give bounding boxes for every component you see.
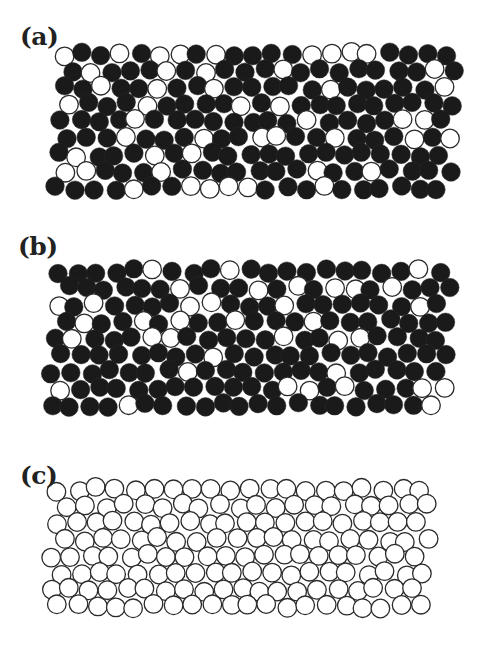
- filled-particle: [199, 331, 218, 350]
- open-particle: [207, 529, 226, 548]
- open-particle: [353, 599, 372, 618]
- filled-particle: [279, 178, 298, 197]
- filled-particle: [338, 78, 357, 97]
- filled-particle: [242, 377, 261, 396]
- open-particle: [296, 596, 315, 615]
- filled-particle: [202, 259, 221, 278]
- open-particle: [405, 130, 424, 149]
- open-particle: [383, 278, 402, 297]
- filled-particle: [237, 329, 256, 348]
- open-particle: [42, 548, 61, 567]
- filled-particle: [117, 93, 136, 112]
- filled-particle: [71, 380, 90, 399]
- open-particle: [56, 530, 75, 549]
- filled-particle: [186, 345, 205, 364]
- open-particle: [238, 595, 257, 614]
- filled-particle: [288, 160, 307, 179]
- open-particle: [388, 513, 407, 532]
- filled-particle: [405, 362, 424, 381]
- filled-particle: [333, 295, 352, 314]
- filled-particle: [286, 127, 305, 146]
- filled-particle: [218, 147, 237, 166]
- filled-particle: [96, 161, 115, 180]
- open-particle: [164, 596, 183, 615]
- filled-particle: [149, 380, 168, 399]
- filled-particle: [229, 127, 248, 146]
- open-particle: [362, 162, 381, 181]
- open-particle: [278, 599, 297, 618]
- open-particle: [157, 548, 176, 567]
- filled-particle: [242, 145, 261, 164]
- open-particle: [297, 111, 316, 130]
- open-particle: [411, 298, 430, 317]
- filled-particle: [46, 177, 65, 196]
- filled-particle: [445, 62, 464, 81]
- filled-particle: [177, 327, 196, 346]
- filled-particle: [136, 394, 155, 413]
- particle-packing-figure: [0, 0, 482, 654]
- filled-particle: [215, 60, 234, 79]
- filled-particle: [403, 281, 422, 300]
- open-particle: [48, 595, 67, 614]
- filled-particle: [256, 59, 275, 78]
- panel-a-particles: [46, 43, 464, 200]
- open-particle: [68, 513, 87, 532]
- filled-particle: [206, 377, 225, 396]
- filled-particle: [145, 110, 164, 129]
- open-particle: [336, 563, 355, 582]
- filled-particle: [72, 345, 91, 364]
- filled-particle: [187, 45, 206, 64]
- filled-particle: [149, 344, 168, 363]
- filled-particle: [98, 129, 117, 148]
- open-particle: [89, 597, 108, 616]
- filled-particle: [267, 162, 286, 181]
- open-particle: [125, 180, 144, 199]
- open-particle: [203, 595, 222, 614]
- filled-particle: [230, 397, 249, 416]
- open-particle: [84, 294, 103, 313]
- filled-particle: [368, 394, 387, 413]
- open-particle: [419, 530, 438, 549]
- open-particle: [228, 529, 247, 548]
- filled-particle: [51, 344, 70, 363]
- filled-particle: [431, 110, 450, 129]
- filled-particle: [267, 397, 286, 416]
- open-particle: [375, 562, 394, 581]
- filled-particle: [352, 261, 371, 280]
- filled-particle: [249, 394, 268, 413]
- filled-particle: [352, 143, 371, 162]
- open-particle: [296, 512, 315, 531]
- filled-particle: [385, 127, 404, 146]
- filled-particle: [100, 360, 119, 379]
- filled-particle: [73, 43, 92, 62]
- open-particle: [313, 512, 332, 531]
- filled-particle: [347, 398, 366, 417]
- filled-particle: [44, 396, 63, 415]
- open-particle: [76, 496, 95, 515]
- filled-particle: [79, 93, 98, 112]
- open-particle: [304, 312, 323, 331]
- filled-particle: [299, 145, 318, 164]
- filled-particle: [436, 313, 455, 332]
- filled-particle: [194, 161, 213, 180]
- open-particle: [94, 529, 113, 548]
- open-particle: [117, 128, 136, 147]
- filled-particle: [229, 279, 248, 298]
- filled-particle: [85, 181, 104, 200]
- filled-particle: [335, 146, 354, 165]
- filled-particle: [204, 112, 223, 131]
- open-particle: [202, 293, 221, 312]
- filled-particle: [441, 278, 460, 297]
- open-particle: [107, 598, 126, 617]
- filled-particle: [217, 360, 236, 379]
- open-particle: [255, 545, 274, 564]
- open-particle: [201, 180, 220, 199]
- filled-particle: [166, 377, 185, 396]
- filled-particle: [113, 164, 132, 183]
- filled-particle: [407, 63, 426, 82]
- open-particle: [124, 599, 143, 618]
- open-particle: [409, 260, 428, 279]
- filled-particle: [350, 59, 369, 78]
- filled-particle: [390, 62, 409, 81]
- open-particle: [148, 80, 167, 99]
